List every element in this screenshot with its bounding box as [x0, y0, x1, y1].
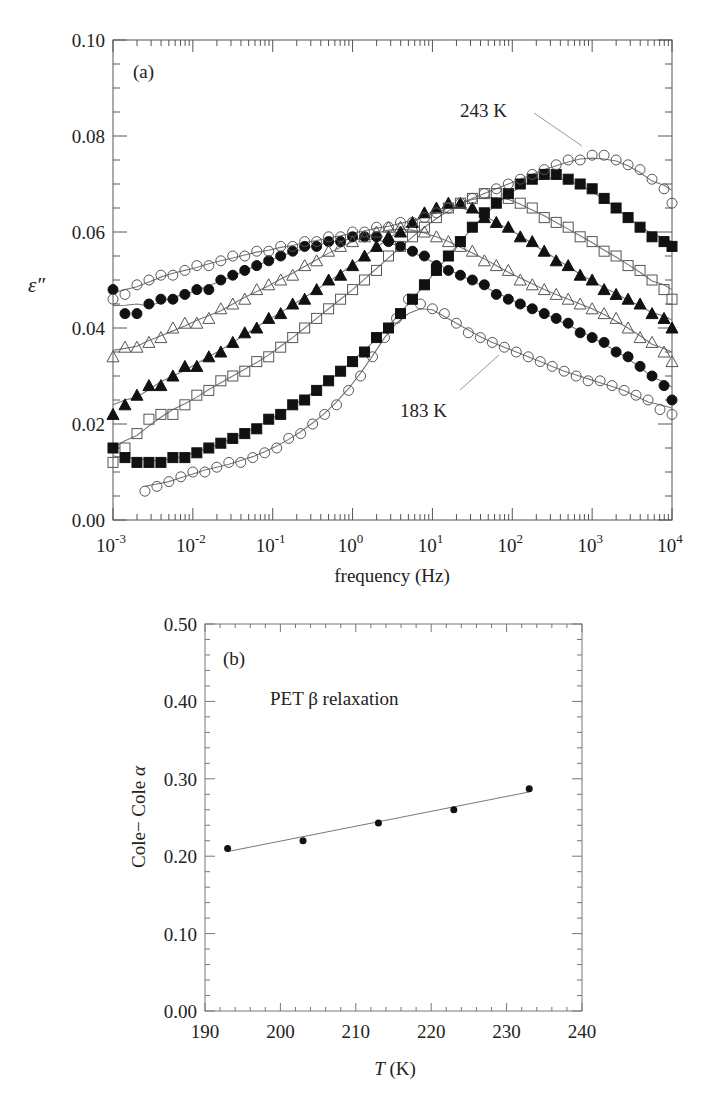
- y-tick-label: 0.10: [164, 924, 197, 945]
- x-tick-label: 104: [657, 531, 683, 556]
- chart-b-data-points: [224, 785, 533, 852]
- annotation-183k-leader: [460, 355, 499, 390]
- chart-a-y-axis-label: ε″: [28, 273, 45, 297]
- chart-a-panel-label: (a): [133, 61, 154, 83]
- x-tick-label: 101: [418, 531, 444, 556]
- x-tick-label: 103: [577, 531, 603, 556]
- data-point: [375, 819, 382, 826]
- data-point: [224, 845, 231, 852]
- annotation-243k: 243 K: [460, 100, 507, 121]
- y-tick-label: 0.00: [72, 510, 105, 531]
- chart-a-x-axis-label: frequency (Hz): [334, 565, 450, 587]
- chart-b-x-ticks: 190200210220230240: [191, 624, 597, 1042]
- x-tick-label: 102: [498, 531, 524, 556]
- y-tick-label: 0.20: [164, 846, 197, 867]
- x-tick-label: 230: [492, 1021, 521, 1042]
- chart-b-y-axis-label: Cole− Cole α: [128, 765, 149, 868]
- figure: 10-310-210-1100101102103104 0.000.020.04…: [0, 0, 717, 1101]
- chart-b: 190200210220230240 0.000.100.200.300.400…: [128, 614, 596, 1080]
- chart-b-y-ticks: 0.000.100.200.300.400.50: [164, 614, 582, 1022]
- x-tick-label: 10-1: [256, 531, 286, 556]
- y-tick-label: 0.08: [72, 126, 105, 147]
- x-tick-label: 220: [417, 1021, 446, 1042]
- chart-b-x-axis-unit: (K): [385, 1058, 416, 1080]
- y-tick-label: 0.30: [164, 769, 197, 790]
- y-tick-label: 0.02: [72, 414, 105, 435]
- annotation-243k-leader: [534, 113, 582, 146]
- y-tick-label: 0.50: [164, 614, 197, 635]
- y-tick-label: 0.00: [164, 1001, 197, 1022]
- series-193k: [108, 232, 677, 405]
- x-tick-label: 10-3: [96, 531, 126, 556]
- chart-b-frame: [205, 624, 582, 1011]
- chart-b-title: PET β relaxation: [270, 688, 399, 709]
- x-tick-label: 10-2: [176, 531, 206, 556]
- data-point: [450, 806, 457, 813]
- y-tick-label: 0.04: [72, 318, 106, 339]
- data-point: [300, 837, 307, 844]
- chart-b-y-axis-greek: α: [128, 765, 149, 776]
- chart-b-panel-label: (b): [223, 648, 245, 670]
- chart-b-y-axis-text: Cole− Cole: [128, 776, 149, 868]
- x-tick-label: 200: [266, 1021, 295, 1042]
- y-tick-label: 0.40: [164, 691, 197, 712]
- y-tick-label: 0.06: [72, 222, 105, 243]
- x-tick-label: 100: [338, 531, 364, 556]
- annotation-183k: 183 K: [400, 400, 447, 421]
- series-233k: [108, 169, 677, 467]
- x-tick-label: 210: [342, 1021, 371, 1042]
- chart-b-x-axis-label: T (K): [374, 1058, 416, 1080]
- chart-a-fit-lines: [113, 158, 672, 486]
- x-tick-label: 190: [191, 1021, 220, 1042]
- chart-a-data-points: [107, 150, 678, 496]
- chart-a: 10-310-210-1100101102103104 0.000.020.04…: [28, 30, 683, 587]
- x-tick-label: 240: [568, 1021, 597, 1042]
- y-tick-label: 0.10: [72, 30, 105, 51]
- data-point: [526, 785, 533, 792]
